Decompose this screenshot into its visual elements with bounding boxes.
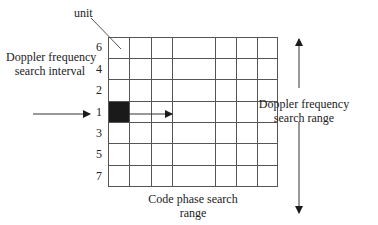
doppler-range-label-line1: Doppler frequency xyxy=(254,97,354,111)
row-label: 1 xyxy=(96,105,102,119)
row-label: 5 xyxy=(96,147,102,161)
row-label: 7 xyxy=(96,169,102,183)
doppler-interval-label-line2: search interval xyxy=(6,64,94,78)
row-label: 2 xyxy=(96,83,102,97)
code-phase-range-label-line2: range xyxy=(138,206,248,220)
doppler-interval-label: Doppler frequency search interval xyxy=(6,50,94,78)
doppler-range-label: Doppler frequency search range xyxy=(254,97,354,125)
unit-label: unit xyxy=(74,6,93,20)
current-search-cell xyxy=(108,101,129,122)
code-phase-range-label-line1: Code phase search xyxy=(138,192,248,206)
doppler-interval-label-line1: Doppler frequency xyxy=(6,50,94,64)
row-label: 6 xyxy=(96,40,102,54)
search-grid xyxy=(108,37,278,187)
code-phase-range-label: Code phase search range xyxy=(138,192,248,220)
row-label: 3 xyxy=(96,126,102,140)
doppler-range-label-line2: search range xyxy=(254,111,354,125)
row-label: 4 xyxy=(96,62,102,76)
